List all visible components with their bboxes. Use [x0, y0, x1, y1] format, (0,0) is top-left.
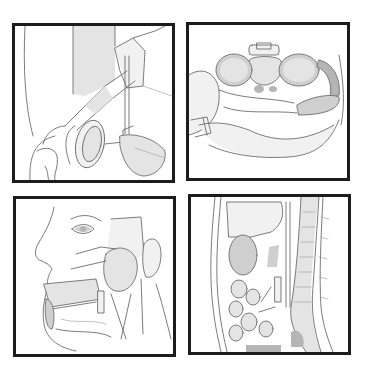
illustration-panel-abdominal-cross-section [186, 22, 350, 181]
illustration-panel-abdominal-viscera [12, 23, 175, 183]
sagittal-trunk-drawing [191, 197, 348, 352]
face-dissection-drawing [16, 199, 173, 354]
illustration-panel-face-dissection [13, 196, 176, 357]
illustration-panel-sagittal-trunk [188, 194, 351, 355]
abdominal-viscera-drawing [15, 26, 172, 180]
abdominal-cross-section-drawing [189, 25, 347, 178]
